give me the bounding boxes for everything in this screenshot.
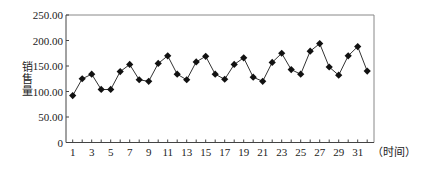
x-tick-label: 21 <box>257 146 268 158</box>
data-point-diamond <box>288 66 295 73</box>
data-point-diamond <box>145 78 152 85</box>
data-point-diamond <box>221 76 228 83</box>
data-point-diamond <box>364 68 371 75</box>
x-tick-label: 31 <box>352 146 363 158</box>
data-point-diamond <box>136 76 143 83</box>
x-tick-label: 5 <box>108 146 114 158</box>
data-point-diamond <box>79 75 86 82</box>
x-tick-label: 25 <box>295 146 307 158</box>
data-point-diamond <box>212 71 219 78</box>
y-tick-label: 0 <box>58 137 64 149</box>
data-point-diamond <box>240 54 247 61</box>
data-point-diamond <box>183 76 190 83</box>
data-point-diamond <box>231 61 238 68</box>
y-tick-label: 100.00 <box>33 86 64 98</box>
x-tick-label: 13 <box>181 146 193 158</box>
x-axis: 135791113151719212325272931 <box>66 140 374 159</box>
data-point-diamond <box>69 92 76 99</box>
data-point-diamond <box>193 58 200 65</box>
data-point-diamond <box>88 71 95 78</box>
x-tick-label: 9 <box>146 146 152 158</box>
data-point-diamond <box>107 86 114 93</box>
data-series <box>69 40 371 99</box>
x-tick-label: 15 <box>200 146 212 158</box>
sales-line-chart: 050.00100.00150.00200.00250.00 135791113… <box>0 0 427 171</box>
x-tick-label: 7 <box>127 146 133 158</box>
x-tick-label: 1 <box>70 146 76 158</box>
series-line <box>73 44 368 96</box>
data-point-diamond <box>117 68 124 75</box>
y-tick-label: 50.00 <box>38 111 63 123</box>
y-tick-label: 250.00 <box>33 9 64 21</box>
x-axis-title: （时间） <box>372 146 416 159</box>
y-axis-title-char: 售 <box>22 72 33 86</box>
y-axis-title-char: 销 <box>22 60 33 74</box>
x-tick-label: 17 <box>219 146 231 158</box>
data-point-diamond <box>202 53 209 60</box>
y-axis-title-char: 量 <box>22 85 33 98</box>
data-point-diamond <box>297 71 304 78</box>
y-axis-title: 销售量 <box>22 60 33 98</box>
x-tick-label: 29 <box>333 146 345 158</box>
y-axis: 050.00100.00150.00200.00250.00 <box>33 9 69 149</box>
x-tick-label: 3 <box>89 146 95 158</box>
data-point-diamond <box>259 78 266 85</box>
data-point-diamond <box>174 71 181 78</box>
y-tick-label: 150.00 <box>33 60 64 72</box>
plot-frame <box>66 15 374 143</box>
x-tick-label: 11 <box>162 146 173 158</box>
data-point-diamond <box>250 74 257 81</box>
x-tick-label: 23 <box>276 146 288 158</box>
x-tick-label: 27 <box>314 146 326 158</box>
x-tick-label: 19 <box>238 146 250 158</box>
y-tick-label: 200.00 <box>33 35 64 47</box>
data-point-diamond <box>98 86 105 93</box>
